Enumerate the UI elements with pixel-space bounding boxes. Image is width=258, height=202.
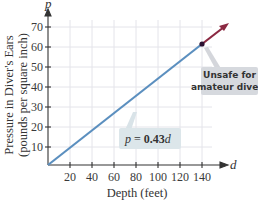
svg-text:Unsafe for: Unsafe for bbox=[203, 70, 256, 80]
chart: 20 40 60 80 100 120 140 10 20 30 40 50 6… bbox=[0, 0, 258, 202]
svg-text:140: 140 bbox=[193, 170, 211, 184]
svg-text:20: 20 bbox=[64, 170, 76, 184]
svg-text:10: 10 bbox=[31, 140, 43, 154]
svg-text:120: 120 bbox=[171, 170, 189, 184]
svg-text:60: 60 bbox=[31, 40, 43, 54]
highlight-point bbox=[199, 41, 204, 46]
svg-text:30: 30 bbox=[31, 100, 43, 114]
svg-text:60: 60 bbox=[108, 170, 120, 184]
svg-text:80: 80 bbox=[130, 170, 142, 184]
svg-text:100: 100 bbox=[149, 170, 167, 184]
unsafe-segment bbox=[202, 27, 224, 44]
x-axis-variable: d bbox=[230, 157, 237, 172]
svg-text:40: 40 bbox=[86, 170, 98, 184]
svg-text:70: 70 bbox=[31, 20, 43, 34]
y-axis-variable: p bbox=[44, 0, 52, 11]
x-axis-arrow-icon bbox=[220, 162, 228, 168]
svg-text:50: 50 bbox=[31, 60, 43, 74]
svg-text:(pounds per square inch): (pounds per square inch) bbox=[16, 33, 30, 157]
equation-label: p = 0.43d bbox=[124, 132, 172, 146]
svg-text:40: 40 bbox=[31, 80, 43, 94]
svg-text:amateur divers: amateur divers bbox=[191, 82, 258, 92]
y-tick-labels: 10 20 30 40 50 60 70 bbox=[31, 20, 43, 154]
y-axis-label: Pressure in Diver's Ears (pounds per squ… bbox=[2, 33, 30, 157]
x-axis-label: Depth (feet) bbox=[107, 186, 168, 200]
svg-text:20: 20 bbox=[31, 120, 43, 134]
svg-text:Pressure in Diver's Ears: Pressure in Diver's Ears bbox=[2, 35, 16, 154]
x-tick-labels: 20 40 60 80 100 120 140 bbox=[64, 170, 211, 184]
